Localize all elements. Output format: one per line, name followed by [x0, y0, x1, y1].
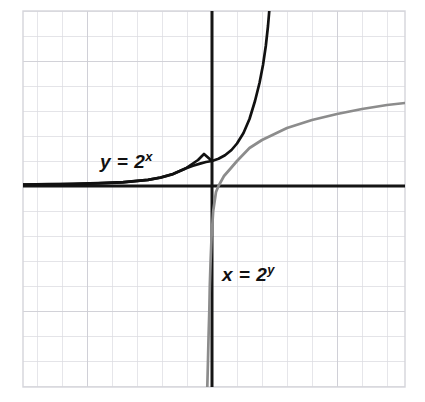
label-exponential-base: y = 2 — [100, 151, 145, 172]
label-logarithmic-curve: x = 2y — [222, 265, 275, 284]
label-exponential-curve: y = 2x — [100, 152, 153, 171]
coordinate-plane — [0, 0, 425, 402]
label-logarithmic-base: x = 2 — [222, 264, 267, 285]
label-exponential-exponent: x — [145, 149, 153, 164]
graph-figure: y = 2x x = 2y — [0, 0, 425, 402]
label-logarithmic-exponent: y — [267, 262, 275, 277]
